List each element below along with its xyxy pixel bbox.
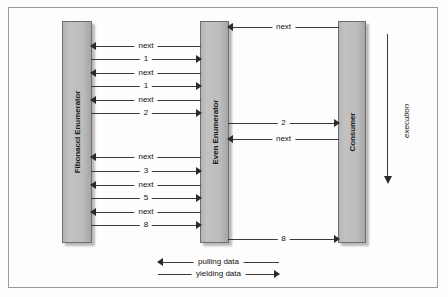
message-label: next	[134, 40, 157, 51]
arrow-right-icon	[196, 82, 202, 90]
message-next-even-to-fibonacci-5: next	[91, 180, 201, 191]
message-next-even-to-fibonacci-4: next	[91, 152, 201, 163]
arrow-left-icon	[90, 69, 96, 77]
arrow-right-icon	[196, 167, 202, 175]
message-label: 5	[140, 192, 152, 203]
message-next-even-to-fibonacci-1: next	[91, 41, 201, 52]
message-value-5-fibonacci-to-even: 5	[91, 193, 201, 204]
message-next-consumer-to-even-1: next	[228, 22, 339, 33]
message-value-1-fibonacci-to-even-b: 1	[91, 81, 201, 92]
arrow-left-icon	[227, 135, 233, 143]
message-label: next	[272, 21, 295, 32]
message-label: next	[134, 179, 157, 190]
arrow-left-icon	[90, 181, 96, 189]
arrow-left-icon	[157, 258, 163, 266]
message-label: 2	[277, 117, 289, 128]
message-next-consumer-to-even-2: next	[228, 134, 339, 145]
lifeline-label-fibonacci-enumerator: Fibonacci Enumerator	[73, 91, 82, 173]
legend-label: pulling data	[193, 256, 244, 267]
message-label: next	[134, 206, 157, 217]
message-label: next	[134, 94, 157, 105]
lifeline-consumer: Consumer	[338, 21, 366, 243]
sequence-diagram-figure: Fibonacci Enumerator Even Enumerator Con…	[0, 0, 448, 297]
execution-axis-arrow	[384, 34, 392, 184]
message-value-3-fibonacci-to-even: 3	[91, 166, 201, 177]
arrow-right-icon	[196, 221, 202, 229]
lifeline-label-even-enumerator: Even Enumerator	[210, 100, 219, 165]
message-label: 8	[140, 219, 152, 230]
message-label: 1	[140, 53, 152, 64]
message-value-1-fibonacci-to-even-a: 1	[91, 54, 201, 65]
arrow-left-icon	[90, 42, 96, 50]
arrow-right-icon	[196, 194, 202, 202]
message-label: 8	[277, 233, 289, 244]
arrow-down-icon	[384, 176, 392, 184]
legend-pulling-data: pulling data	[158, 257, 279, 268]
message-value-2-even-to-consumer: 2	[228, 118, 339, 129]
arrow-left-icon	[227, 23, 233, 31]
legend-yielding-data: yielding data	[158, 269, 279, 280]
message-next-even-to-fibonacci-6: next	[91, 207, 201, 218]
arrow-right-icon	[334, 235, 340, 243]
arrow-left-icon	[90, 153, 96, 161]
message-value-8-fibonacci-to-even: 8	[91, 220, 201, 231]
message-label: next	[272, 133, 295, 144]
message-label: next	[134, 67, 157, 78]
execution-axis-shaft	[387, 34, 388, 177]
message-next-even-to-fibonacci-3: next	[91, 95, 201, 106]
lifeline-label-consumer: Consumer	[348, 113, 357, 152]
execution-axis-label: execution	[402, 104, 411, 138]
message-value-2-fibonacci-to-even: 2	[91, 108, 201, 119]
arrow-left-icon	[90, 208, 96, 216]
arrow-right-icon	[274, 270, 280, 278]
arrow-right-icon	[334, 119, 340, 127]
message-label: 2	[140, 107, 152, 118]
message-label: next	[134, 151, 157, 162]
arrow-right-icon	[196, 109, 202, 117]
message-label: 1	[140, 80, 152, 91]
legend-label: yielding data	[191, 268, 246, 279]
message-value-8-even-to-consumer: 8	[228, 234, 339, 245]
message-next-even-to-fibonacci-2: next	[91, 68, 201, 79]
lifeline-even-enumerator: Even Enumerator	[200, 21, 229, 243]
diagram-frame: Fibonacci Enumerator Even Enumerator Con…	[8, 7, 438, 288]
message-label: 3	[140, 165, 152, 176]
lifeline-fibonacci-enumerator: Fibonacci Enumerator	[62, 21, 92, 243]
arrow-right-icon	[196, 55, 202, 63]
arrow-left-icon	[90, 96, 96, 104]
